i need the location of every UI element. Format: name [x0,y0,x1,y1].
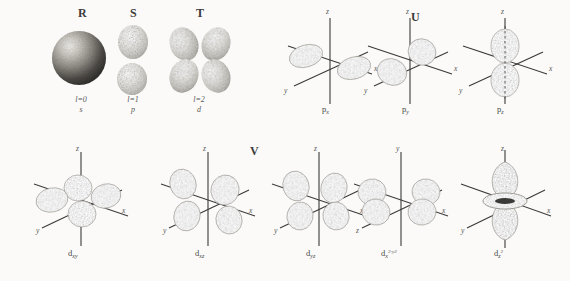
caption-s-quantum: l=0 [75,95,87,105]
orbital-label-dz2-sub: z2 [498,253,503,259]
orbital-label-dyz: dyz [306,248,315,258]
d-xy-orbital [26,150,136,250]
axis-label-x-pz: x [549,64,552,73]
dxz-lobe-upper-left [166,166,200,203]
dxz-lobe-upper-right [207,172,242,209]
group-label-S: S [130,6,137,21]
orbital-label-px-sub: x [326,109,329,115]
axis-label-z-dz2: z [501,144,504,153]
axis-label-y-dxz: y [163,226,166,235]
axis-label-z-dxz: z [203,144,206,153]
dz2-lobe-lower [492,206,518,241]
s-sphere-grain [52,31,106,85]
dz2-torus-ring [483,193,527,209]
group-label-T: T [196,6,204,21]
caption-p-symbol: p [127,105,139,115]
axis-label-y-dyz: y [274,226,277,235]
orbital-shapes-figure: R S T U V [0,0,570,281]
axis-label-y-px: y [284,86,287,95]
orbital-label-pz-sub: z [501,109,503,115]
caption-d-symbol: d [193,105,205,115]
orbital-label-dxz-sub: xz [199,253,204,259]
group-label-R: R [78,6,87,21]
caption-d-quantum: l=2 [193,95,205,105]
orbital-label-dxz: dxz [195,248,204,258]
axis-label-z-py: z [406,7,409,16]
axis-label-z-dxy: z [76,144,79,153]
axis-label-y-dx2y2: y [396,144,399,153]
orbital-label-dz2: dz2 [494,248,503,258]
orbital-label-dx2y2-sub: x2-y2 [385,253,397,259]
dxy-lobe-bottom [68,201,96,227]
s-orbital-sphere [46,24,116,94]
orbital-label-dxy-sub: xy [72,253,77,259]
axis-label-y-dz2: y [461,226,464,235]
orbital-label-pz: pz [497,104,504,114]
axis-label-y-dxy: y [36,226,39,235]
d-z2-orbital [455,148,555,252]
orbital-label-dyz-sub: yz [310,253,315,259]
d-x2-y2-orbital [346,150,456,250]
caption-p: l=1 p [127,95,139,115]
p-orbital-pair [108,22,162,98]
axis-label-x-dz2: x [547,206,550,215]
dz2-lobe-upper [492,162,518,197]
orbital-label-dx2y2: dx2-y2 [381,248,397,258]
axes-py [368,18,452,104]
axis-label-y-py: y [364,86,367,95]
d-xz-orbital [153,150,263,250]
dyz-lobe-upper-left [279,168,312,204]
p-z-orbital [455,14,555,110]
p-y-orbital [360,14,460,110]
caption-s: l=0 s [75,95,87,115]
axis-label-x-dxy: x [122,206,125,215]
dyz-lobe-lower-left [284,199,316,232]
caption-d: l=2 d [193,95,205,115]
caption-p-quantum: l=1 [127,95,139,105]
axis-label-z-dyz: z [314,144,317,153]
axis-label-z-pz: z [501,7,504,16]
axis-label-x-dxz: x [249,206,252,215]
caption-s-symbol: s [75,105,87,115]
axis-label-x-dx2y2: x [442,206,445,215]
d-lobe-upper-right [197,23,236,65]
p-upper-lobe [118,25,148,59]
dxz-lobe-lower-right [213,203,246,237]
px-lobe-back [287,41,326,72]
orbital-label-dz2-sup: 2 [501,249,504,254]
orbital-label-dx2y2-sup: 2-y2 [388,249,397,254]
axis-label-z-dx2y2: z [356,226,359,235]
py-lobe-front [373,54,411,90]
axes-dxz [161,152,255,246]
d-lobe-lower-left [165,55,204,97]
p-lower-lobe [117,63,147,95]
orbital-label-px: px [322,104,329,114]
axis-label-y-pz: y [459,86,462,95]
d-lobe-lower-right [197,55,236,97]
dxz-lobe-lower-left [170,198,203,234]
d-lobe-upper-left [165,23,204,65]
d-orbital-cloverleaf [166,22,234,98]
axis-label-z-px: z [326,7,329,16]
orbital-label-py: py [402,104,409,114]
orbital-label-dxy: dxy [68,248,78,258]
orbital-label-py-sub: y [406,109,409,115]
py-lobe-back [404,34,440,69]
dxy-lobe-top [64,175,92,201]
